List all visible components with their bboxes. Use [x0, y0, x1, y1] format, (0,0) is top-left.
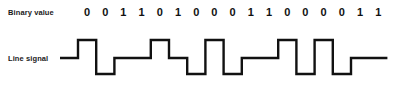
binary-bit: 0	[226, 5, 240, 19]
binary-bit: 0	[189, 5, 203, 19]
binary-bit: 0	[207, 5, 221, 19]
binary-bit: 0	[298, 5, 312, 19]
line-signal-waveform	[0, 30, 393, 86]
binary-bit: 0	[280, 5, 294, 19]
binary-bit-row: 00110100011000011	[0, 5, 393, 19]
binary-bit: 0	[80, 5, 94, 19]
binary-bit: 1	[353, 5, 367, 19]
waveform-path	[60, 40, 387, 74]
binary-bit: 1	[116, 5, 130, 19]
binary-bit: 1	[171, 5, 185, 19]
binary-bit: 0	[153, 5, 167, 19]
binary-bit: 0	[98, 5, 112, 19]
binary-bit: 0	[335, 5, 349, 19]
binary-bit: 1	[244, 5, 258, 19]
binary-bit: 1	[135, 5, 149, 19]
binary-bit: 0	[317, 5, 331, 19]
line-coding-diagram: Binary value Line signal 001101000110000…	[0, 0, 393, 86]
binary-bit: 1	[262, 5, 276, 19]
binary-bit: 1	[371, 5, 385, 19]
